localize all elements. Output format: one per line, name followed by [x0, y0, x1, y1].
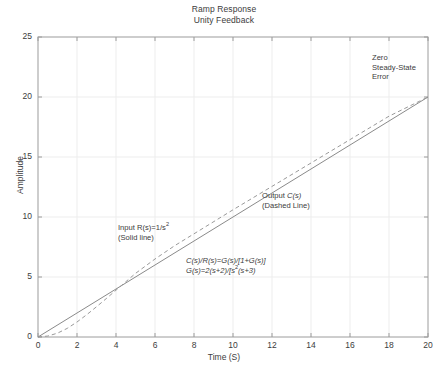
x-axis-label: Time (S): [0, 352, 448, 362]
annotation-zero-steady-state-error: Zero Steady-State Error: [372, 53, 416, 82]
annotation-input-exponent: 2: [166, 221, 169, 227]
annotation-output-prefix: Output: [262, 191, 287, 200]
y-tick-label: 15: [2, 152, 32, 161]
annotation-output-line-2: (Dashed Line): [262, 201, 310, 211]
x-tick-label: 18: [377, 341, 401, 350]
y-tick-label: 5: [2, 272, 32, 281]
chart-title-line-1: Ramp Response: [0, 4, 448, 15]
annotation-equation-line-1: C(s)/R(s)=G(s)/[1+G(s)]: [186, 256, 266, 266]
chart-title-line-2: Unity Feedback: [0, 15, 448, 26]
y-axis-label: Amplitude: [15, 135, 25, 215]
annotation-output-series: Output C(s) (Dashed Line): [262, 191, 310, 210]
annotation-input-prefix: Input R(s)=1/s: [118, 223, 166, 232]
annotation-equation-line-2: G(s)=2(s+2)/[s2(s+3): [186, 266, 266, 276]
y-tick-label: 25: [2, 32, 32, 41]
x-tick-label: 8: [182, 341, 206, 350]
y-tick-label: 20: [2, 92, 32, 101]
x-tick-label: 12: [260, 341, 284, 350]
annotation-input-line-2: (Solid line): [118, 233, 169, 243]
annotation-output-symbol: C(s): [287, 191, 301, 200]
y-tick-label: 0: [2, 332, 32, 341]
annotation-zero-line-1: Zero: [372, 53, 416, 63]
annotation-zero-line-2: Steady-State: [372, 63, 416, 73]
annotation-zero-line-3: Error: [372, 72, 416, 82]
x-tick-label: 10: [221, 341, 245, 350]
x-tick-label: 14: [299, 341, 323, 350]
x-tick-label: 2: [65, 341, 89, 350]
chart-title: Ramp Response Unity Feedback: [0, 4, 448, 26]
y-tick-label: 10: [2, 212, 32, 221]
x-tick-label: 20: [416, 341, 440, 350]
annotation-output-line-1: Output C(s): [262, 191, 310, 201]
annotation-equation-1-text: C(s)/R(s)=G(s)/[1+G(s)]: [186, 256, 266, 265]
x-tick-label: 0: [26, 341, 50, 350]
x-tick-label: 4: [104, 341, 128, 350]
annotation-input-series: Input R(s)=1/s2 (Solid line): [118, 223, 169, 242]
annotation-input-line-1: Input R(s)=1/s2: [118, 223, 169, 233]
annotation-transfer-function: C(s)/R(s)=G(s)/[1+G(s)] G(s)=2(s+2)/[s2(…: [186, 256, 266, 275]
x-tick-label: 6: [143, 341, 167, 350]
x-tick-label: 16: [338, 341, 362, 350]
annotation-equation-2-prefix: G(s)=2(s+2)/[s: [186, 266, 235, 275]
annotation-equation-2-suffix: (s+3): [238, 266, 256, 275]
